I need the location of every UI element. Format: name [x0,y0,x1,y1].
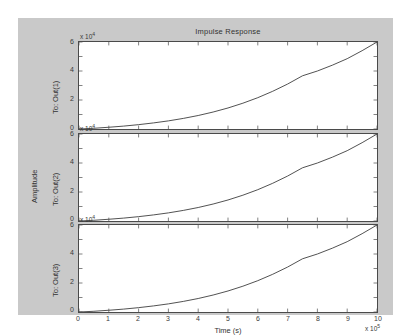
xtick-5: 5 [221,315,235,322]
subplot-out1[interactable] [78,41,378,130]
xlabel: Time (s) [78,326,378,335]
curve-out3 [79,225,377,312]
curve-out1 [79,42,377,129]
xtick-10: 10 [371,315,385,322]
figure-panel: Impulse Response x 104 6 4 2 0 To: Out(1… [18,18,393,315]
ylabel-out1: To: Out(1) [51,81,60,114]
xtick-1: 1 [101,315,115,322]
ytick-out1-2: 2 [62,95,74,102]
xtick-3: 3 [161,315,175,322]
xtick-6: 6 [251,315,265,322]
ytick-out2-2: 2 [62,187,74,194]
ylabel-amplitude: Amplitude [30,170,39,203]
ylabel-out3: To: Out(3) [51,264,60,297]
xtick-2: 2 [131,315,145,322]
y-exponent-out1: x 104 [80,32,95,41]
xtick-9: 9 [341,315,355,322]
subplot-out2[interactable] [78,133,378,222]
ytick-out2-6: 6 [62,130,74,137]
y-exponent-out3: x 104 [80,215,95,224]
curve-out2 [79,134,377,221]
chart-title: Impulse Response [78,27,378,36]
xtick-0: 0 [71,315,85,322]
x-exponent: x 105 [365,324,380,333]
xtick-8: 8 [311,315,325,322]
ytick-out3-2: 2 [62,278,74,285]
xtick-7: 7 [281,315,295,322]
ytick-out3-4: 4 [62,249,74,256]
ytick-out1-4: 4 [62,66,74,73]
y-exponent-out2: x 104 [80,124,95,133]
ytick-out1-6: 6 [62,38,74,45]
ylabel-out2: To: Out(2) [51,173,60,206]
ytick-out3-0: 0 [62,306,74,313]
xtick-4: 4 [191,315,205,322]
ytick-out3-6: 6 [62,221,74,228]
ytick-out2-4: 4 [62,158,74,165]
subplot-out3[interactable] [78,224,378,313]
